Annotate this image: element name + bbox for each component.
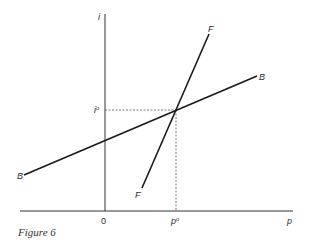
- curve-b-label-left: B: [17, 171, 23, 181]
- x-axis-label: p: [286, 216, 292, 226]
- equilibrium-p-label: po: [170, 216, 180, 226]
- origin-label: 0: [101, 216, 106, 226]
- curve-f-label-bottom: F: [135, 190, 141, 200]
- y-axis-label: i: [98, 12, 101, 22]
- curve-f: [142, 34, 209, 188]
- figure-caption: Figure 6: [17, 226, 56, 238]
- diagram-canvas: i p 0 io po F F B B Figure 6: [0, 0, 309, 242]
- curve-b-label-right: B: [259, 72, 265, 82]
- equilibrium-i-label: io: [94, 105, 100, 115]
- curve-f-label-top: F: [208, 24, 214, 34]
- curve-b: [24, 76, 257, 175]
